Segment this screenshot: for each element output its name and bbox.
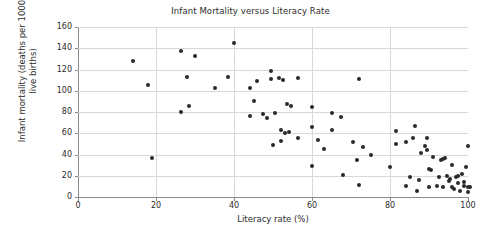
data-point xyxy=(351,140,355,144)
data-point xyxy=(310,125,314,129)
data-point xyxy=(462,180,466,184)
data-point xyxy=(252,99,256,103)
data-point xyxy=(394,142,398,146)
data-point xyxy=(427,185,431,189)
data-point xyxy=(187,104,191,108)
data-point xyxy=(232,41,236,45)
gridline-vertical xyxy=(156,27,157,197)
data-point xyxy=(404,140,408,144)
data-point xyxy=(269,77,273,81)
data-point xyxy=(357,183,361,187)
data-point xyxy=(425,148,429,152)
gridline-vertical xyxy=(234,27,235,197)
data-point xyxy=(131,59,135,63)
x-tick-label: 0 xyxy=(63,202,93,210)
y-tick-label: 40 xyxy=(46,151,72,159)
data-point xyxy=(265,116,269,120)
x-axis-label: Literacy rate (%) xyxy=(78,214,468,224)
data-point xyxy=(452,187,456,191)
data-point xyxy=(450,163,454,167)
data-point xyxy=(411,136,415,140)
x-tick-mark xyxy=(156,198,157,201)
data-point xyxy=(310,105,314,109)
data-point xyxy=(415,189,419,193)
data-point xyxy=(146,83,150,87)
data-point xyxy=(150,156,154,160)
data-point xyxy=(289,104,293,108)
data-point xyxy=(248,114,252,118)
data-point xyxy=(310,164,314,168)
data-point xyxy=(316,138,320,142)
data-point xyxy=(339,115,343,119)
y-tick-label: 160 xyxy=(46,23,72,31)
y-tick-mark xyxy=(75,155,78,156)
y-tick-mark xyxy=(75,176,78,177)
y-tick-label: 60 xyxy=(46,129,72,137)
y-tick-label: 120 xyxy=(46,66,72,74)
x-tick-mark xyxy=(312,198,313,201)
data-point xyxy=(330,128,334,132)
x-tick-label: 40 xyxy=(219,202,249,210)
data-point xyxy=(466,144,470,148)
data-point xyxy=(431,155,435,159)
data-point xyxy=(261,112,265,116)
x-tick-label: 20 xyxy=(141,202,171,210)
data-point xyxy=(279,139,283,143)
scatter-chart: Infant Mortality versus Literacy Rate In… xyxy=(0,0,501,233)
data-point xyxy=(281,78,285,82)
data-point xyxy=(330,111,334,115)
data-point xyxy=(394,129,398,133)
y-tick-mark xyxy=(75,48,78,49)
data-point xyxy=(369,153,373,157)
x-tick-label: 80 xyxy=(375,202,405,210)
data-point xyxy=(271,143,275,147)
gridline-horizontal xyxy=(78,48,468,49)
data-point xyxy=(460,172,464,176)
data-point xyxy=(443,156,447,160)
data-point xyxy=(388,165,392,169)
data-point xyxy=(435,184,439,188)
x-tick-mark xyxy=(78,198,79,201)
data-point xyxy=(248,86,252,90)
data-point xyxy=(179,110,183,114)
gridline-horizontal xyxy=(78,155,468,156)
data-point xyxy=(357,77,361,81)
data-point xyxy=(185,75,189,79)
gridline-horizontal xyxy=(78,27,468,28)
data-point xyxy=(361,145,365,149)
data-point xyxy=(296,76,300,80)
data-point xyxy=(466,190,470,194)
y-tick-mark xyxy=(75,112,78,113)
y-tick-mark xyxy=(75,70,78,71)
x-tick-mark xyxy=(390,198,391,201)
data-point xyxy=(255,79,259,83)
data-point xyxy=(408,175,412,179)
data-point xyxy=(213,86,217,90)
data-point xyxy=(322,147,326,151)
data-point xyxy=(429,168,433,172)
data-point xyxy=(355,158,359,162)
y-tick-label: 20 xyxy=(46,172,72,180)
data-point xyxy=(341,173,345,177)
chart-title: Infant Mortality versus Literacy Rate xyxy=(0,6,501,16)
x-tick-mark xyxy=(234,198,235,201)
y-tick-label: 0 xyxy=(46,193,72,201)
y-tick-label: 100 xyxy=(46,87,72,95)
x-axis-line xyxy=(78,197,469,198)
data-point xyxy=(425,136,429,140)
data-point xyxy=(179,49,183,53)
data-point xyxy=(464,165,468,169)
data-point xyxy=(404,184,408,188)
gridline-horizontal xyxy=(78,133,468,134)
y-tick-mark xyxy=(75,91,78,92)
data-point xyxy=(269,69,273,73)
gridline-vertical xyxy=(390,27,391,197)
data-point xyxy=(417,178,421,182)
data-point xyxy=(458,189,462,193)
data-point xyxy=(226,75,230,79)
y-tick-label: 140 xyxy=(46,44,72,52)
data-point xyxy=(296,136,300,140)
data-point xyxy=(287,130,291,134)
y-tick-mark xyxy=(75,133,78,134)
x-tick-label: 60 xyxy=(297,202,327,210)
